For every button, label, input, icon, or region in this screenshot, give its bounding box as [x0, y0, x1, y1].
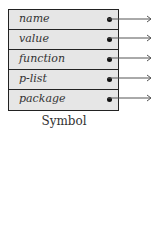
diagram-caption: Symbol: [0, 114, 128, 128]
